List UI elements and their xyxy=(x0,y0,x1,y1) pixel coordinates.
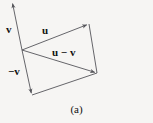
label-u: u xyxy=(42,25,48,36)
label-neg-v: −v xyxy=(8,66,20,77)
vector-neg-v-line xyxy=(22,50,31,93)
figure-caption: (a) xyxy=(0,103,153,115)
edge-u-tip-to-diff-tip xyxy=(89,24,97,73)
vector-v-line xyxy=(13,4,22,50)
edge-neg-v-tip-to-diff-tip xyxy=(32,73,97,95)
label-v: v xyxy=(6,24,12,35)
label-u-minus-v: u − v xyxy=(52,47,75,58)
